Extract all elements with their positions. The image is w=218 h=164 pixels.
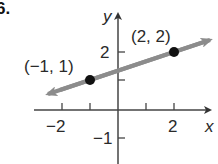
coordinate-graph: 6. −2 2 2 −1 x y (−1, 1) (2, 2) [0,0,218,164]
x-axis-label: x [204,117,214,136]
data-point [85,75,95,85]
data-line-forward [60,40,210,90]
y-tick-label: −1 [93,129,112,148]
x-tick-label: 2 [168,117,177,136]
data-point [169,47,179,57]
point-label: (2, 2) [131,27,171,46]
problem-number: 6. [0,0,10,18]
y-axis-label: y [102,7,113,26]
point-label: (−1, 1) [24,57,74,76]
x-tick-label: −2 [46,117,65,136]
y-tick-label: 2 [100,43,109,62]
